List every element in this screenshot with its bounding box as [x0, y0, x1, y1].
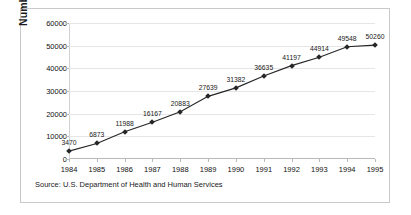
chart-figure: Number of Deaths 01000020000300004000050…: [20, 8, 390, 203]
y-axis-tick-label: 0: [21, 155, 67, 164]
x-axis-tick-mark: [375, 159, 376, 162]
data-point-marker: [122, 129, 128, 135]
data-point-marker: [66, 148, 72, 154]
data-point-label: 11988: [105, 120, 145, 127]
y-axis-title: Number of Deaths: [17, 0, 31, 35]
source-note: Source: U.S. Department of Health and Hu…: [35, 180, 223, 189]
data-point-label: 31382: [216, 76, 256, 83]
x-axis-tick-mark: [236, 159, 237, 162]
data-point-label: 6873: [77, 131, 117, 138]
data-point-marker: [233, 85, 239, 91]
series-markers: 3470687311988161672088327639313823663541…: [69, 23, 375, 159]
y-axis-tick-label: 50000: [21, 41, 67, 50]
data-point-marker: [177, 109, 183, 115]
data-point-label: 41197: [272, 54, 312, 61]
data-point-label: 36635: [244, 64, 284, 71]
x-axis-tick-mark: [152, 159, 153, 162]
y-axis-tick-label: 60000: [21, 19, 67, 28]
x-axis-tick-mark: [125, 159, 126, 162]
data-point-marker: [205, 94, 211, 100]
data-point-marker: [317, 54, 323, 60]
data-point-label: 27639: [188, 84, 228, 91]
data-point-label: 3470: [49, 139, 89, 146]
x-axis-tick-mark: [97, 159, 98, 162]
x-axis-tick-mark: [347, 159, 348, 162]
data-point-marker: [261, 73, 267, 79]
data-point-label: 44914: [299, 45, 339, 52]
x-axis-tick-mark: [180, 159, 181, 162]
x-axis-tick-mark: [292, 159, 293, 162]
y-axis-tick-label: 30000: [21, 87, 67, 96]
x-axis-tick-mark: [208, 159, 209, 162]
data-point-marker: [94, 141, 100, 147]
data-point-label: 16167: [132, 110, 172, 117]
x-axis-tick-label: 1995: [355, 165, 395, 174]
y-axis-tick-label: 40000: [21, 64, 67, 73]
data-point-marker: [150, 120, 156, 126]
plot-area: 0100002000030000400005000060000 19841985…: [69, 23, 375, 159]
x-axis-tick-mark: [319, 159, 320, 162]
data-point-label: 50260: [355, 33, 395, 40]
data-point-marker: [372, 42, 378, 48]
data-point-marker: [289, 63, 295, 69]
y-axis-tick-label: 20000: [21, 109, 67, 118]
x-axis-tick-mark: [69, 159, 70, 162]
data-point-marker: [344, 44, 350, 50]
data-point-label: 20883: [160, 100, 200, 107]
x-axis-tick-mark: [264, 159, 265, 162]
